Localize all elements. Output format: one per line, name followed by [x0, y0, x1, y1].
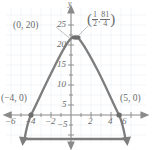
y-tick-10: 10 — [57, 80, 66, 89]
vertex-y-denominator: 4 — [100, 19, 110, 28]
right-branch-arrow — [122, 137, 131, 147]
graph-figure: y 25 20 15 10 5 −5 −6 −4 −2 2 4 6 (0, 20… — [0, 0, 152, 150]
x-tick-minus-4: −4 — [25, 117, 36, 126]
vertex-y-numerator: 81 — [100, 11, 110, 19]
vertex-close-paren: ) — [110, 11, 115, 27]
y-tick-15: 15 — [57, 60, 66, 69]
label-x-intercept-left: (−4, 0) — [1, 94, 27, 104]
x-tick-minus-6: −6 — [5, 117, 16, 126]
label-x-intercept-right: (5, 0) — [120, 94, 141, 104]
point-vertex — [72, 35, 81, 39]
label-y-intercept: (0, 20) — [13, 21, 38, 31]
x-tick-2: 2 — [88, 117, 93, 126]
left-branch-arrow — [19, 137, 28, 147]
marked-points — [28, 35, 121, 117]
y-tick-5: 5 — [62, 100, 67, 109]
y-tick-minus-5: −5 — [57, 120, 68, 129]
point-x-intercept-right — [116, 112, 121, 117]
x-axis-arrow-right — [141, 112, 148, 118]
y-axis-label: y — [68, 0, 72, 8]
vertex-y-fraction: 814 — [100, 11, 110, 28]
label-vertex: (12,814) — [87, 10, 115, 28]
y-axis-arrow-down — [68, 142, 74, 149]
y-tick-20: 20 — [57, 40, 66, 49]
x-tick-4: 4 — [108, 117, 113, 126]
x-tick-minus-2: −2 — [45, 117, 56, 126]
y-tick-25: 25 — [57, 20, 66, 29]
x-tick-6: 6 — [122, 117, 127, 126]
